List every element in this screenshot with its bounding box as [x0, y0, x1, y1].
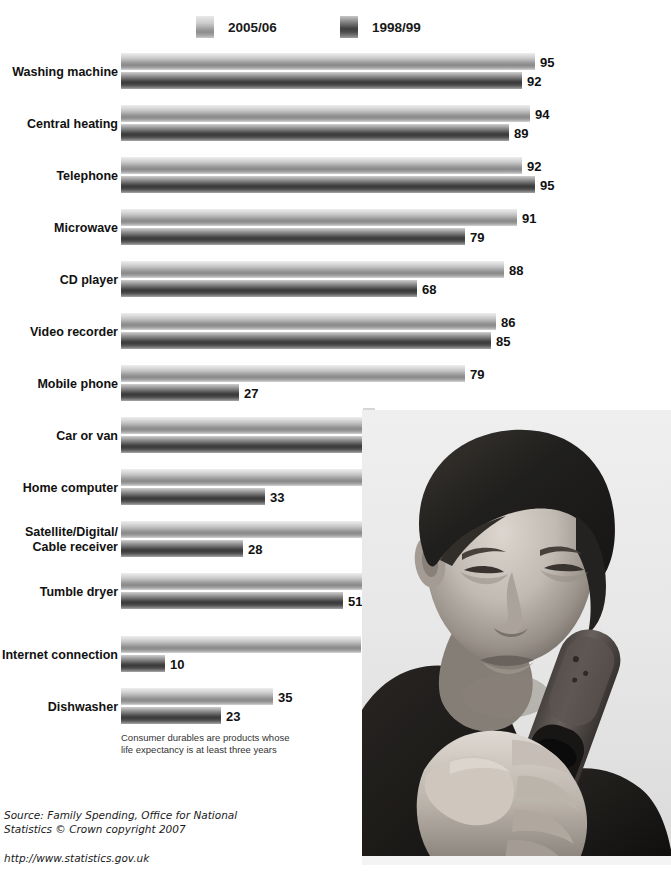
category-label: Car or van: [56, 429, 118, 444]
bar-value-label: 35: [278, 690, 292, 705]
photo-illustration: [362, 410, 671, 865]
category-label: Internet connection: [2, 648, 118, 663]
bar-value-label: 92: [527, 74, 541, 89]
bar-value-label: 88: [509, 263, 523, 278]
chart-page: 2005/061998/99 Washing machine9592Centra…: [0, 0, 671, 882]
bar-1998-99: [121, 332, 491, 349]
bar-value-label: 68: [422, 282, 436, 297]
source-url[interactable]: http://www.statistics.gov.uk: [4, 852, 149, 864]
bar-value-label: 95: [540, 178, 554, 193]
bar-value-label: 86: [501, 315, 515, 330]
category-label: Dishwasher: [48, 700, 118, 715]
bar-value-label: 10: [170, 657, 184, 672]
category-label: Washing machine: [12, 65, 118, 80]
source-note: Source: Family Spending, Office for Nati…: [4, 808, 304, 836]
bar-value-label: 33: [270, 490, 284, 505]
category-label: Home computer: [23, 481, 118, 496]
bar-2005-06: [121, 53, 535, 70]
bar-1998-99: [121, 707, 221, 724]
bar-value-label: 89: [514, 126, 528, 141]
bar-2005-06: [121, 313, 496, 330]
bar-value-label: 95: [540, 55, 554, 70]
bar-1998-99: [121, 384, 239, 401]
bar-value-label: 23: [226, 709, 240, 724]
bar-1998-99: [121, 488, 265, 505]
category-label: Mobile phone: [37, 377, 118, 392]
bar-value-label: 92: [527, 159, 541, 174]
bar-value-label: 27: [244, 386, 258, 401]
bar-value-label: 79: [470, 367, 484, 382]
photo-young-man-with-mobile-phone: [362, 410, 671, 865]
category-label: Satellite/Digital/ Cable receiver: [25, 525, 118, 555]
category-label: Telephone: [56, 169, 118, 184]
bar-value-label: 79: [470, 230, 484, 245]
bar-value-label: 94: [535, 107, 549, 122]
bar-1998-99: [121, 592, 343, 609]
bar-2005-06: [121, 105, 530, 122]
bar-value-label: 85: [496, 334, 510, 349]
chart-footnote: Consumer durables are products whose lif…: [121, 732, 381, 756]
bar-value-label: 28: [248, 542, 262, 557]
bar-2005-06: [121, 157, 522, 174]
bar-1998-99: [121, 228, 465, 245]
category-label: Central heating: [27, 117, 118, 132]
bar-1998-99: [121, 176, 535, 193]
bar-2005-06: [121, 261, 504, 278]
bar-2005-06: [121, 636, 361, 653]
bar-1998-99: [121, 124, 509, 141]
category-label: Microwave: [54, 221, 118, 236]
bar-2005-06: [121, 688, 273, 705]
bar-1998-99: [121, 72, 522, 89]
bar-value-label: 51: [348, 594, 362, 609]
bar-value-label: 91: [522, 211, 536, 226]
bar-1998-99: [121, 655, 165, 672]
category-label: Tumble dryer: [40, 585, 118, 600]
category-label: CD player: [60, 273, 118, 288]
category-label: Video recorder: [30, 325, 118, 340]
bar-1998-99: [121, 280, 417, 297]
bar-2005-06: [121, 573, 374, 590]
bar-1998-99: [121, 540, 243, 557]
bar-2005-06: [121, 209, 517, 226]
bar-2005-06: [121, 365, 465, 382]
